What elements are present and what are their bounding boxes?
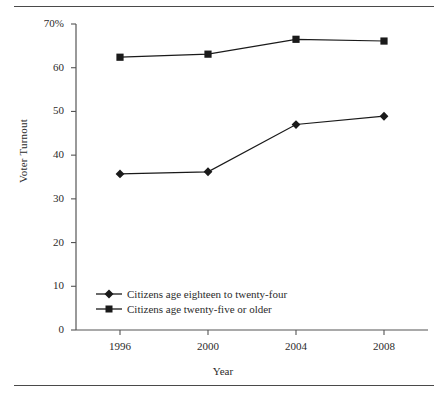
data-point-marker — [380, 37, 387, 44]
y-axis-title: Voter Turnout — [17, 106, 29, 196]
data-point-marker — [292, 36, 299, 43]
legend-label-diamond: Citizens age eighteen to twenty-four — [127, 289, 287, 300]
x-tick-label: 2000 — [178, 341, 238, 352]
data-point-marker — [116, 54, 123, 61]
y-tick-label: 30 — [24, 193, 64, 204]
y-tick-label: 70% — [24, 18, 64, 29]
x-axis-title: Year — [0, 365, 446, 377]
series-line — [120, 116, 384, 174]
figure-container: 70%6050403020100 1996200020042008 Voter … — [0, 0, 446, 397]
x-tick-label: 2004 — [266, 341, 326, 352]
y-tick-label: 10 — [24, 280, 64, 291]
x-tick-label: 1996 — [90, 341, 150, 352]
data-point-marker — [204, 167, 213, 176]
y-tick-label: 60 — [24, 62, 64, 73]
legend-item-square: Citizens age twenty-five or older — [96, 303, 272, 315]
data-series-layer — [116, 36, 389, 179]
y-axis-ticks — [71, 24, 76, 330]
legend-label-square: Citizens age twenty-five or older — [127, 304, 272, 315]
legend-item-diamond: Citizens age eighteen to twenty-four — [96, 288, 287, 300]
legend-square-icon — [96, 303, 122, 315]
data-point-marker — [116, 170, 125, 179]
data-point-marker — [204, 51, 211, 58]
series-youth — [116, 112, 389, 179]
series-line — [120, 39, 384, 57]
data-point-marker — [380, 112, 389, 121]
x-tick-label: 2008 — [354, 341, 414, 352]
plot-svg — [0, 0, 446, 397]
series-older — [116, 36, 387, 61]
x-axis-ticks — [120, 330, 384, 335]
data-point-marker — [292, 120, 301, 129]
y-tick-label: 50 — [24, 105, 64, 116]
y-tick-label: 40 — [24, 149, 64, 160]
y-tick-label: 0 — [24, 324, 64, 335]
y-tick-label: 20 — [24, 237, 64, 248]
legend-diamond-icon — [96, 288, 122, 300]
line-chart: 70%6050403020100 1996200020042008 Voter … — [0, 0, 446, 397]
